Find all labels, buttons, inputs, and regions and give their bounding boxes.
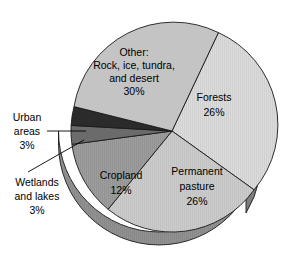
label-forests-name: Forests bbox=[196, 91, 231, 103]
label-pasture-line1: Permanent bbox=[171, 165, 222, 177]
label-other-line2: Rock, ice, tundra, bbox=[93, 59, 175, 71]
pie-chart-figure: Other: Rock, ice, tundra, and desert 30%… bbox=[0, 0, 307, 267]
label-wetlands-value: 3% bbox=[29, 204, 44, 216]
label-forests-value: 26% bbox=[203, 106, 224, 118]
label-wetlands-and-lakes: Wetlands and lakes 3% bbox=[15, 176, 60, 216]
pie-chart-svg: Other: Rock, ice, tundra, and desert 30%… bbox=[0, 0, 307, 267]
label-other-value: 30% bbox=[123, 85, 144, 97]
label-urban-areas: Urban areas 3% bbox=[13, 111, 42, 151]
label-urban-value: 3% bbox=[19, 139, 34, 151]
label-wetlands-line2: and lakes bbox=[15, 190, 60, 202]
label-urban-line1: Urban bbox=[13, 111, 42, 123]
label-cropland-name: Cropland bbox=[100, 169, 143, 181]
label-other-line3: and desert bbox=[109, 72, 159, 84]
label-cropland-value: 12% bbox=[110, 184, 131, 196]
label-pasture-line2: pasture bbox=[179, 180, 214, 192]
label-urban-line2: areas bbox=[14, 125, 40, 137]
label-pasture-value: 26% bbox=[186, 195, 207, 207]
label-other-line1: Other: bbox=[119, 46, 148, 58]
label-wetlands-line1: Wetlands bbox=[15, 176, 59, 188]
